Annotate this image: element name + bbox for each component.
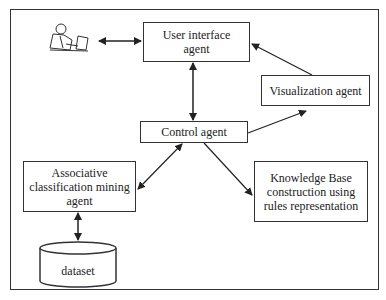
control-agent-node: Control agent xyxy=(140,121,248,143)
dataset-label: dataset xyxy=(40,264,116,279)
knowledge-base-node: Knowledge Baseconstruction usingrules re… xyxy=(254,161,368,222)
associative-classification-mining-agent-node: Associativeclassification miningagent xyxy=(23,161,136,212)
user-at-computer-icon xyxy=(50,24,88,51)
visualization-agent-node: Visualization agent xyxy=(261,75,370,106)
user-interface-agent-node: User interfaceagent xyxy=(143,22,250,62)
